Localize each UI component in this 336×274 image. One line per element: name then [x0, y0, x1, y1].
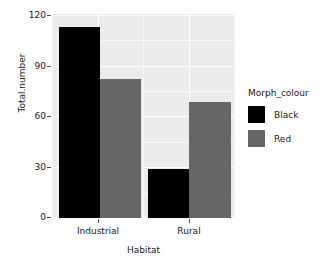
y-axis-ticks: 120 90 60 30 0 [0, 0, 46, 274]
y-tick-label-30: 30 [0, 163, 46, 172]
y-tick-label-0: 0 [0, 213, 46, 222]
legend-item-red[interactable]: Red [248, 130, 336, 147]
x-tick-mark-rural [189, 219, 190, 223]
x-tick-mark-industrial [98, 219, 99, 223]
legend-title: Morph_colour [248, 88, 336, 98]
bar-industrial-black[interactable] [59, 27, 100, 218]
x-tick-label-industrial: Industrial [68, 226, 128, 236]
y-tick-label-120: 120 [0, 11, 46, 20]
legend-key-black [248, 106, 265, 123]
gridline-x-minor-right [234, 14, 235, 218]
x-tick-label-rural: Rural [159, 226, 219, 236]
legend: Morph_colour Black Red [248, 88, 336, 154]
bar-rural-red[interactable] [189, 102, 231, 218]
legend-key-red [248, 130, 265, 147]
plot-panel [52, 14, 235, 218]
y-tick-mark-120 [47, 15, 51, 16]
y-tick-label-60: 60 [0, 112, 46, 121]
y-tick-label-90: 90 [0, 62, 46, 71]
legend-label-red: Red [274, 134, 291, 144]
bar-rural-black[interactable] [148, 169, 189, 218]
y-tick-mark-90 [47, 66, 51, 67]
bar-industrial-red[interactable] [100, 79, 141, 218]
chart-root: Total.number 120 90 60 30 0 [0, 0, 336, 274]
legend-item-black[interactable]: Black [248, 106, 336, 123]
y-tick-mark-30 [47, 167, 51, 168]
x-axis-title: Habitat [52, 245, 235, 255]
y-tick-mark-0 [47, 217, 51, 218]
legend-label-black: Black [274, 110, 298, 120]
gridline-x-mid [143, 14, 144, 218]
y-tick-mark-60 [47, 116, 51, 117]
gridline-x-minor-left [52, 14, 53, 218]
